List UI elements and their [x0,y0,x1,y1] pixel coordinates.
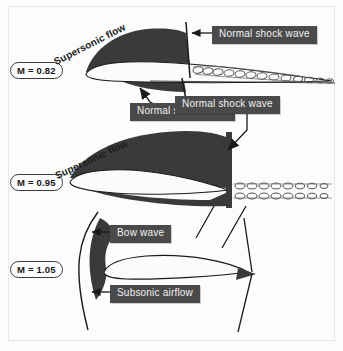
mach-label-095: M = 0.95 [10,174,63,191]
transonic-airflow-figure: M = 0.82 Supersonic flow Normal shock wa… [0,0,343,351]
trailing-shock-upper-105 [244,218,252,272]
airfoil-082 [86,62,332,83]
airfoil-105 [104,255,248,279]
normal-shock-wave-callout-upper-082: Normal shock wave [212,26,317,44]
oblique-shock-upper-b-105 [222,206,246,248]
trailing-shock-lower-105 [238,274,252,332]
turbulent-wake-095 [233,183,332,199]
panel-mach-095-artwork [70,110,332,208]
trailing-edge-shock-095 [226,132,232,208]
oblique-shock-upper-a-105 [196,206,214,238]
trailing-edge-shock-105 [236,268,256,280]
bow-wave-callout-105: Bow wave [110,225,171,243]
subsonic-airflow-callout-105: Subsonic airflow [110,285,200,303]
mach-label-105: M = 1.05 [10,261,63,278]
normal-shock-wave-callout-095: Normal shock wave [175,96,280,114]
